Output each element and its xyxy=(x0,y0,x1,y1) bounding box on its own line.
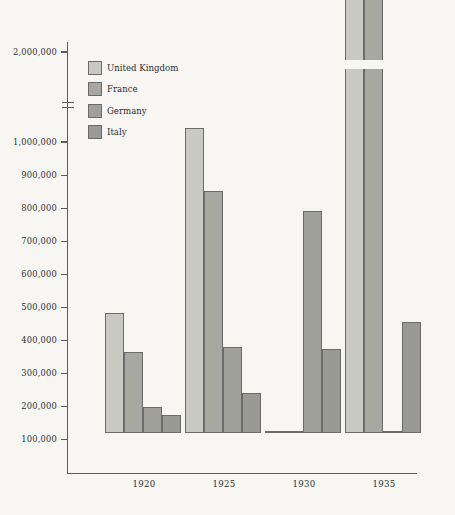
bar[interactable] xyxy=(402,322,421,433)
legend-item[interactable]: Italy xyxy=(88,122,178,144)
legend-label: United Kingdom xyxy=(107,63,178,73)
bar[interactable] xyxy=(204,191,223,433)
bar-axis-break-gap xyxy=(363,60,384,69)
legend-item[interactable]: United Kingdom xyxy=(88,57,178,79)
bar-chart: 100,000200,000300,000400,000500,000600,0… xyxy=(0,0,455,515)
x-axis-label: 1935 xyxy=(345,479,423,489)
bar-axis-break-gap xyxy=(382,60,403,69)
y-tick-label: 2,000,000 xyxy=(0,47,57,57)
bar[interactable] xyxy=(265,431,284,433)
y-tick-label: 900,000 xyxy=(0,170,57,180)
bar[interactable] xyxy=(124,352,143,433)
legend-swatch-icon xyxy=(88,125,102,139)
bar[interactable] xyxy=(143,407,162,433)
bar-axis-break-gap xyxy=(264,60,285,69)
bar[interactable] xyxy=(284,431,303,433)
bar[interactable] xyxy=(242,393,261,433)
legend-swatch-icon xyxy=(88,104,102,118)
y-tick-label: 400,000 xyxy=(0,335,57,345)
bar[interactable] xyxy=(162,415,181,433)
bar-axis-break-gap xyxy=(283,60,304,69)
y-tick-label: 1,000,000 xyxy=(0,137,57,147)
bar[interactable] xyxy=(322,349,341,433)
bar[interactable] xyxy=(303,211,322,433)
legend: United KingdomFranceGermanyItaly xyxy=(88,57,178,143)
x-axis-label: 1920 xyxy=(105,479,183,489)
legend-swatch-icon xyxy=(88,82,102,96)
bar-axis-break-gap xyxy=(344,60,365,69)
legend-swatch-icon xyxy=(88,61,102,75)
legend-item[interactable]: Germany xyxy=(88,100,178,122)
x-axis-label: 1925 xyxy=(185,479,263,489)
legend-item[interactable]: France xyxy=(88,79,178,101)
y-tick-label: 800,000 xyxy=(0,203,57,213)
bar[interactable] xyxy=(223,347,242,433)
bar[interactable] xyxy=(105,313,124,433)
y-tick-label: 700,000 xyxy=(0,236,57,246)
legend-label: France xyxy=(107,84,138,94)
bar-group xyxy=(345,0,423,433)
bar[interactable] xyxy=(185,128,204,433)
bar-group xyxy=(265,0,343,433)
legend-label: Germany xyxy=(107,106,147,116)
bar[interactable] xyxy=(383,431,402,433)
bar-group xyxy=(185,0,263,433)
legend-label: Italy xyxy=(107,127,127,137)
y-tick-label: 600,000 xyxy=(0,269,57,279)
y-tick-label: 100,000 xyxy=(0,434,57,444)
x-axis-label: 1930 xyxy=(265,479,343,489)
y-tick-label: 500,000 xyxy=(0,302,57,312)
y-tick-label: 200,000 xyxy=(0,401,57,411)
y-tick-label: 300,000 xyxy=(0,368,57,378)
